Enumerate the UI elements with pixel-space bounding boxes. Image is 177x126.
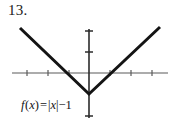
math-figure-problem-13: 13. f(x)=|x|−1 bbox=[0, 0, 177, 126]
equation-equals-sign: = bbox=[39, 98, 48, 112]
equation-constant: 1 bbox=[66, 98, 72, 112]
function-equation-label: f(x)=|x|−1 bbox=[21, 99, 72, 112]
equation-minus-sign: − bbox=[59, 98, 66, 112]
function-curve-abs-x-minus-1 bbox=[20, 27, 160, 94]
